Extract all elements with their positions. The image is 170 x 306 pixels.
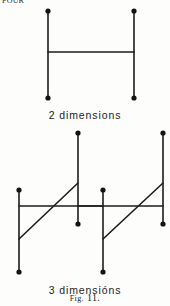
node-back-left-bottom [75,221,80,226]
edge-left-diagonal [19,183,78,239]
figure-11-drawing [0,0,170,306]
diagram-three-dimensions [16,130,165,274]
node-right-bottom [131,95,136,100]
node-left-bottom [45,95,50,100]
node-front-left-top [16,187,21,192]
caption-two-dimensions-label: 2 dimensions [49,109,122,121]
node-front-left-bottom [16,269,21,274]
node-front-right-top [100,187,105,192]
node-back-left-top [75,130,80,135]
edge-right-diagonal [103,183,163,239]
node-left-top [45,8,50,13]
figure-number-digits: 11. [87,292,100,303]
node-front-right-bottom [100,269,105,274]
node-right-top [131,8,136,13]
figure-number-prefix: Fig. [70,294,84,303]
node-back-right-bottom [160,221,165,226]
diagram-two-dimensions [45,8,136,100]
caption-two-dimensions: 2 dimensions [0,105,170,123]
figure-number: Fig. 11. [0,292,170,303]
node-back-right-top [160,130,165,135]
scanned-page: FOUR 2 dimensions 3 dimensións Fig. 11. [0,0,170,306]
